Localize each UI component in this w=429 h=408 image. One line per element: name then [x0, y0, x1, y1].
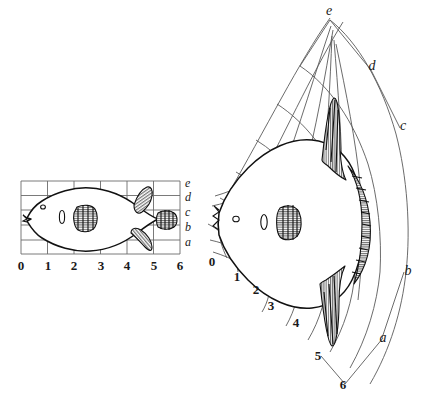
- right-x-label-6: 6: [340, 377, 347, 392]
- left-x-label-5: 5: [151, 258, 158, 273]
- transformation-figure: 0 1 2 3 4 5 6 e d c b a: [0, 0, 429, 408]
- left-y-label-e: e: [185, 176, 191, 190]
- left-fish-eye: [41, 205, 46, 209]
- left-fish-gill-slit: [59, 211, 64, 224]
- right-y-label-e: e: [326, 3, 332, 18]
- left-fish-pectoral-fin: [74, 205, 98, 231]
- right-fish-gill-slit: [261, 215, 267, 230]
- left-x-label-1: 1: [45, 258, 52, 273]
- right-x-label-1: 1: [234, 269, 241, 284]
- right-x-label-0: 0: [209, 254, 216, 269]
- right-x-label-2: 2: [253, 282, 260, 297]
- left-x-label-0: 0: [18, 258, 25, 273]
- left-x-label-3: 3: [98, 258, 105, 273]
- right-y-label-d: d: [369, 58, 377, 73]
- right-y-label-b: b: [405, 263, 412, 278]
- left-fish-caudal-fin: [157, 211, 178, 230]
- right-x-label-4: 4: [293, 315, 300, 330]
- right-x-label-3: 3: [268, 298, 275, 313]
- left-y-label-a: a: [185, 235, 191, 249]
- left-x-label-6: 6: [177, 258, 184, 273]
- right-x-label-5: 5: [315, 348, 322, 363]
- left-x-label-2: 2: [71, 258, 78, 273]
- left-x-label-4: 4: [124, 258, 131, 273]
- right-y-label-a: a: [380, 330, 387, 345]
- left-y-label-d: d: [185, 190, 192, 204]
- right-fish-eye: [233, 216, 239, 222]
- left-y-label-c: c: [185, 205, 191, 219]
- left-y-label-b: b: [185, 220, 191, 234]
- figure-root: 0 1 2 3 4 5 6 e d c b a: [0, 0, 429, 408]
- right-y-label-c: c: [400, 118, 407, 133]
